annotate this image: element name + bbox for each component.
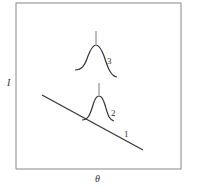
curve-2-peak xyxy=(82,96,114,121)
curve-3-label: 3 xyxy=(107,56,112,66)
diagram-canvas: 1 2 3 θ I xyxy=(0,0,198,189)
y-axis-label: I xyxy=(6,77,11,88)
curve-1-label: 1 xyxy=(124,129,129,139)
plot-frame xyxy=(16,3,181,169)
x-axis-label: θ xyxy=(95,173,100,184)
curve-2-label: 2 xyxy=(111,108,116,118)
curve-1-line xyxy=(42,95,143,150)
